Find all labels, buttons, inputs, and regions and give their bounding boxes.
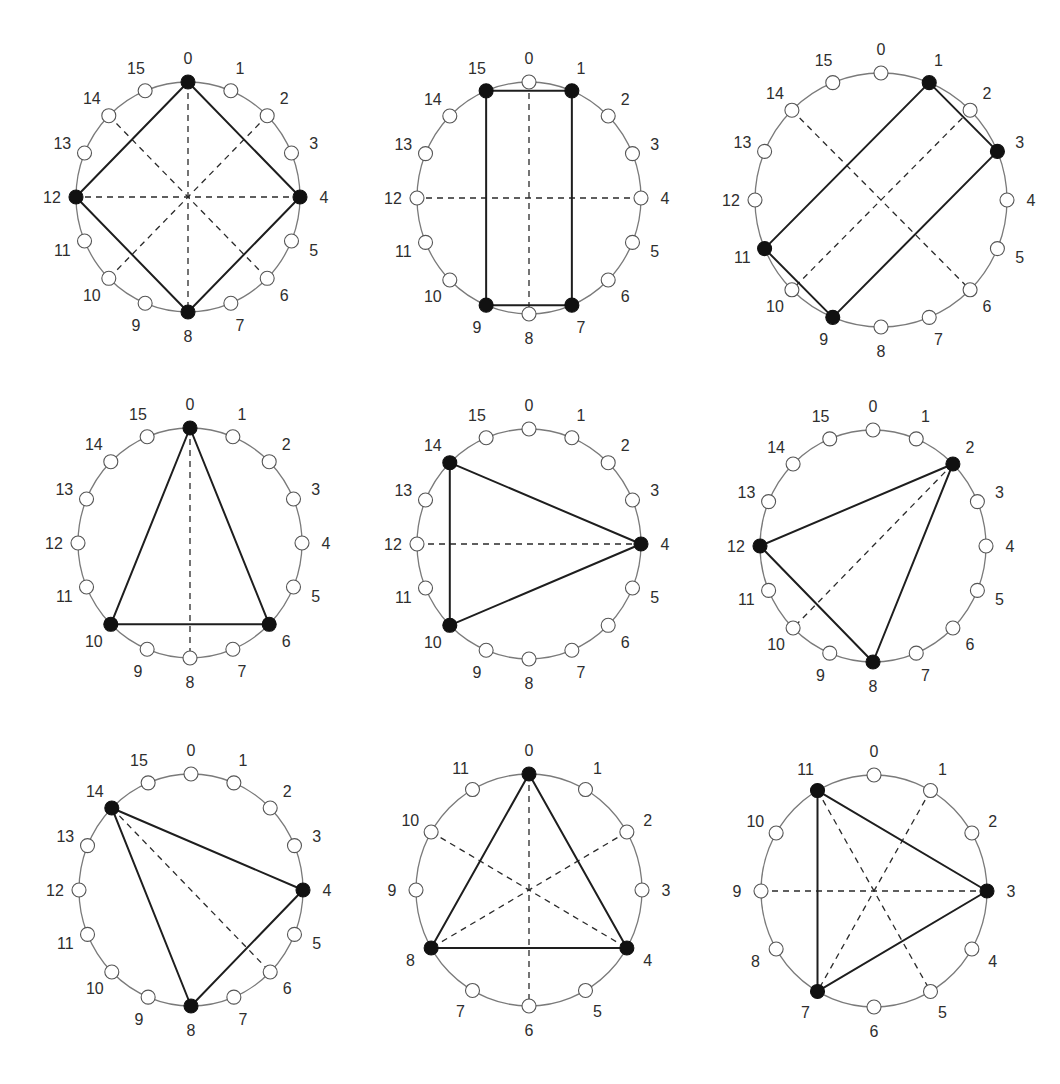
filled-node-7 xyxy=(811,984,825,998)
open-node-15 xyxy=(479,431,493,445)
node-label-1: 1 xyxy=(938,761,947,778)
node-label-12: 12 xyxy=(45,535,63,552)
filled-node-11 xyxy=(758,242,772,256)
node-label-13: 13 xyxy=(734,134,752,151)
open-node-9 xyxy=(138,296,152,310)
node-label-3: 3 xyxy=(650,482,659,499)
open-node-5 xyxy=(286,580,300,594)
node-label-2: 2 xyxy=(621,91,630,108)
open-node-15 xyxy=(141,776,155,790)
open-node-1 xyxy=(226,430,240,444)
node-label-13: 13 xyxy=(55,481,73,498)
open-node-7 xyxy=(227,990,241,1004)
node-label-0: 0 xyxy=(184,50,193,67)
filled-node-3 xyxy=(990,144,1004,158)
node-label-14: 14 xyxy=(83,90,101,107)
open-node-9 xyxy=(409,883,423,897)
node-label-0: 0 xyxy=(525,397,534,414)
open-node-11 xyxy=(81,927,95,941)
node-label-14: 14 xyxy=(424,91,442,108)
clock-diagram-4: 0123456789101112131415 xyxy=(45,396,330,691)
node-label-1: 1 xyxy=(934,52,943,69)
node-label-4: 4 xyxy=(661,190,670,207)
open-node-13 xyxy=(419,147,433,161)
node-label-10: 10 xyxy=(85,633,103,650)
node-label-9: 9 xyxy=(135,1011,144,1028)
node-label-2: 2 xyxy=(988,813,997,830)
open-node-8 xyxy=(522,307,536,321)
node-label-0: 0 xyxy=(525,50,534,67)
node-label-4: 4 xyxy=(1006,538,1015,555)
node-label-15: 15 xyxy=(130,752,148,769)
node-label-11: 11 xyxy=(797,761,814,778)
polygon-edge-0-6 xyxy=(190,428,269,624)
node-label-3: 3 xyxy=(309,135,318,152)
open-node-13 xyxy=(758,144,772,158)
open-node-12 xyxy=(748,193,762,207)
node-label-9: 9 xyxy=(134,663,143,680)
filled-node-0 xyxy=(183,421,197,435)
node-label-8: 8 xyxy=(406,952,415,969)
node-label-5: 5 xyxy=(593,1003,602,1020)
open-node-12 xyxy=(71,536,85,550)
node-label-3: 3 xyxy=(1007,883,1016,900)
filled-node-4 xyxy=(620,941,634,955)
node-label-5: 5 xyxy=(311,588,320,605)
open-node-0 xyxy=(522,75,536,89)
node-label-9: 9 xyxy=(388,882,397,899)
node-label-2: 2 xyxy=(282,436,291,453)
open-node-3 xyxy=(625,493,639,507)
node-label-3: 3 xyxy=(662,882,671,899)
node-label-7: 7 xyxy=(239,1011,248,1028)
node-label-8: 8 xyxy=(186,674,195,691)
filled-node-4 xyxy=(293,190,307,204)
node-label-8: 8 xyxy=(525,330,534,347)
node-label-11: 11 xyxy=(395,243,412,260)
open-node-7 xyxy=(226,642,240,656)
node-label-8: 8 xyxy=(751,953,760,970)
open-node-1 xyxy=(224,84,238,98)
node-label-4: 4 xyxy=(320,189,329,206)
node-label-9: 9 xyxy=(819,331,828,348)
open-node-11 xyxy=(78,234,92,248)
node-label-12: 12 xyxy=(727,538,745,555)
filled-node-8 xyxy=(181,305,195,319)
node-label-3: 3 xyxy=(650,136,659,153)
node-label-4: 4 xyxy=(988,953,997,970)
clock-diagram-6: 0123456789101112131415 xyxy=(727,398,1014,695)
polygon-edge-11-3 xyxy=(818,791,988,891)
open-node-3 xyxy=(287,839,301,853)
open-node-6 xyxy=(522,999,536,1013)
node-label-15: 15 xyxy=(129,406,147,423)
node-label-4: 4 xyxy=(661,536,670,553)
node-label-7: 7 xyxy=(801,1004,810,1021)
open-node-15 xyxy=(823,432,837,446)
node-label-10: 10 xyxy=(424,634,442,651)
open-node-2 xyxy=(263,801,277,815)
node-label-3: 3 xyxy=(995,484,1004,501)
open-node-2 xyxy=(965,826,979,840)
filled-node-2 xyxy=(946,457,960,471)
open-node-7 xyxy=(565,643,579,657)
node-label-9: 9 xyxy=(473,319,482,336)
node-label-14: 14 xyxy=(424,437,442,454)
node-label-7: 7 xyxy=(934,331,943,348)
node-label-1: 1 xyxy=(577,60,586,77)
filled-node-15 xyxy=(479,84,493,98)
open-node-10 xyxy=(102,271,116,285)
filled-node-4 xyxy=(296,883,310,897)
open-node-5 xyxy=(625,581,639,595)
node-label-7: 7 xyxy=(236,317,245,334)
open-node-10 xyxy=(785,283,799,297)
open-node-9 xyxy=(823,646,837,660)
open-node-4 xyxy=(295,536,309,550)
node-label-1: 1 xyxy=(921,408,930,425)
node-label-15: 15 xyxy=(815,52,833,69)
node-label-12: 12 xyxy=(722,192,740,209)
node-label-6: 6 xyxy=(621,634,630,651)
node-label-2: 2 xyxy=(621,437,630,454)
node-label-0: 0 xyxy=(186,396,195,413)
node-label-11: 11 xyxy=(56,588,73,605)
open-node-9 xyxy=(141,990,155,1004)
filled-node-10 xyxy=(443,618,457,632)
